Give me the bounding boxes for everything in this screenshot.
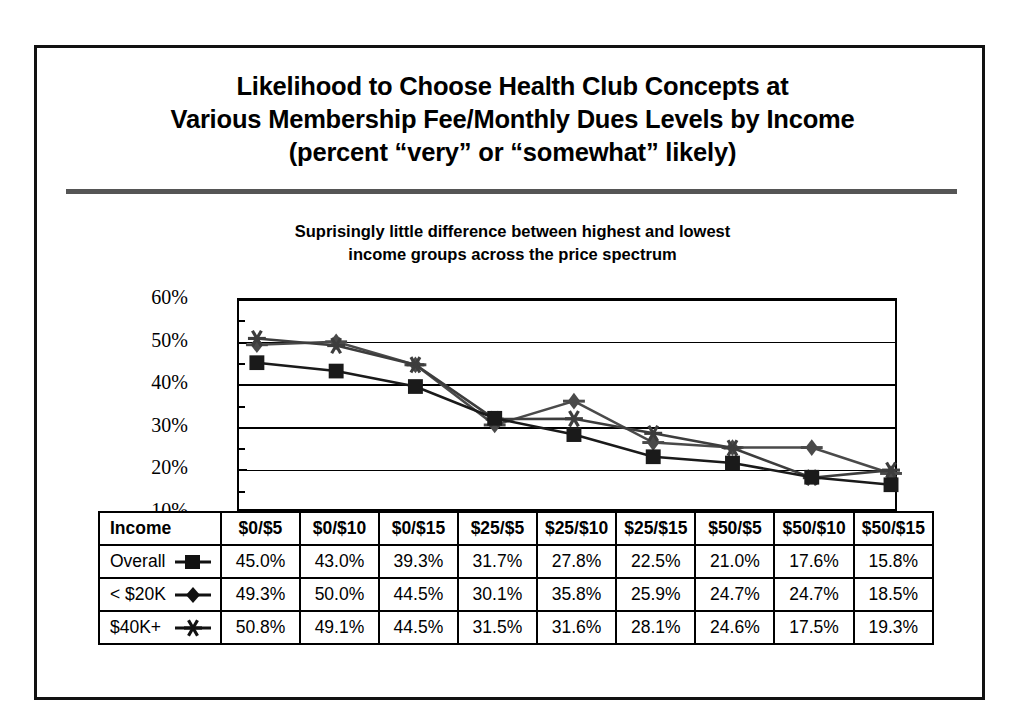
table-col-header-3: $25/$5	[458, 512, 537, 545]
table-cell-r2-c2: 44.5%	[379, 611, 458, 644]
title-line-2: Various Membership Fee/Monthly Dues Leve…	[77, 103, 948, 136]
table-cell-r1-c8: 18.5%	[854, 578, 933, 611]
table-header-income: Income	[99, 512, 221, 545]
table-col-header-7: $50/$10	[774, 512, 853, 545]
table-col-header-6: $50/$5	[695, 512, 774, 545]
table-cell-r1-c7: 24.7%	[774, 578, 853, 611]
table-cell-r0-c5: 22.5%	[616, 545, 695, 578]
table-cell-r2-c1: 49.1%	[300, 611, 379, 644]
table-cell-r0-c0: 45.0%	[221, 545, 300, 578]
series-name-label: Overall	[110, 551, 165, 572]
title-line-1: Likelihood to Choose Health Club Concept…	[77, 70, 948, 103]
table-cell-r0-c3: 31.7%	[458, 545, 537, 578]
series-name-label: $40K+	[110, 617, 161, 638]
title-divider-rule	[66, 189, 957, 194]
table-cell-r1-c2: 44.5%	[379, 578, 458, 611]
subtitle-line-1: Suprisingly little difference between hi…	[97, 220, 928, 243]
table-cell-r1-c0: 49.3%	[221, 578, 300, 611]
table-col-header-1: $0/$10	[300, 512, 379, 545]
chart-subtitle: Suprisingly little difference between hi…	[97, 220, 928, 266]
series-layer	[239, 300, 895, 509]
data-point-diamond	[563, 393, 585, 410]
data-point-square	[249, 355, 264, 370]
data-point-square	[646, 449, 661, 464]
data-point-square	[329, 364, 344, 379]
table-cell-r2-c0: 50.8%	[221, 611, 300, 644]
table-row: Overall45.0%43.0%39.3%31.7%27.8%22.5%21.…	[99, 545, 933, 578]
table-col-header-5: $25/$15	[616, 512, 695, 545]
series-line-overall	[257, 363, 891, 485]
table-row: $40K+50.8%49.1%44.5%31.5%31.6%28.1%24.6%…	[99, 611, 933, 644]
table-cell-r2-c6: 24.6%	[695, 611, 774, 644]
y-axis-label-60%: 60%	[102, 287, 188, 307]
legend-diamond-icon	[173, 586, 213, 604]
table-cell-r1-c1: 50.0%	[300, 578, 379, 611]
table-cell-r1-c3: 30.1%	[458, 578, 537, 611]
data-point-square	[804, 470, 819, 485]
table-row: < $20K49.3%50.0%44.5%30.1%35.8%25.9%24.7…	[99, 578, 933, 611]
data-point-square	[725, 456, 740, 471]
series-name-label: < $20K	[110, 584, 166, 605]
y-axis-label-30%: 30%	[102, 415, 188, 435]
page-title: Likelihood to Choose Health Club Concept…	[77, 70, 948, 169]
table-cell-r1-c4: 35.8%	[537, 578, 616, 611]
table-cell-r1-c6: 24.7%	[695, 578, 774, 611]
table-col-header-0: $0/$5	[221, 512, 300, 545]
slide-canvas: Likelihood to Choose Health Club Concept…	[0, 0, 1019, 726]
table-row-label-2: $40K+	[99, 611, 221, 644]
subtitle-line-2: income groups across the price spectrum	[97, 243, 928, 266]
y-axis-label-20%: 20%	[102, 457, 188, 477]
table-cell-r0-c1: 43.0%	[300, 545, 379, 578]
legend-square-icon	[173, 553, 213, 571]
table-col-header-8: $50/$15	[854, 512, 933, 545]
table-row-label-0: Overall	[99, 545, 221, 578]
legend-asterisk-icon	[173, 619, 213, 637]
table-cell-r1-c5: 25.9%	[616, 578, 695, 611]
y-axis-label-50%: 50%	[102, 330, 188, 350]
y-axis-label-40%: 40%	[102, 372, 188, 392]
table-row-label-1: < $20K	[99, 578, 221, 611]
data-point-diamond	[801, 439, 823, 456]
plot-area	[237, 298, 897, 511]
data-point-square	[884, 477, 899, 492]
slide-frame: Likelihood to Choose Health Club Concept…	[34, 45, 985, 700]
data-point-square	[487, 411, 502, 426]
table-cell-r2-c3: 31.5%	[458, 611, 537, 644]
line-chart: 10%20%30%40%50%60%	[142, 291, 932, 519]
table-col-header-4: $25/$10	[537, 512, 616, 545]
table-cell-r2-c5: 28.1%	[616, 611, 695, 644]
data-point-diamond	[642, 434, 664, 451]
table-cell-r0-c4: 27.8%	[537, 545, 616, 578]
table-cell-r2-c8: 19.3%	[854, 611, 933, 644]
data-point-asterisk	[565, 411, 583, 426]
table-cell-r0-c6: 21.0%	[695, 545, 774, 578]
table-cell-r2-c7: 17.5%	[774, 611, 853, 644]
data-point-square	[567, 427, 582, 442]
table-cell-r0-c7: 17.6%	[774, 545, 853, 578]
table-cell-r0-c2: 39.3%	[379, 545, 458, 578]
data-table: Income $0/$5$0/$10$0/$15$25/$5$25/$10$25…	[98, 511, 934, 645]
table-cell-r0-c8: 15.8%	[854, 545, 933, 578]
data-point-square	[408, 379, 423, 394]
table-cell-r2-c4: 31.6%	[537, 611, 616, 644]
title-line-3: (percent “very” or “somewhat” likely)	[77, 136, 948, 169]
table-col-header-2: $0/$15	[379, 512, 458, 545]
table-header-row: Income $0/$5$0/$10$0/$15$25/$5$25/$10$25…	[99, 512, 933, 545]
table-body: Overall45.0%43.0%39.3%31.7%27.8%22.5%21.…	[99, 545, 933, 644]
